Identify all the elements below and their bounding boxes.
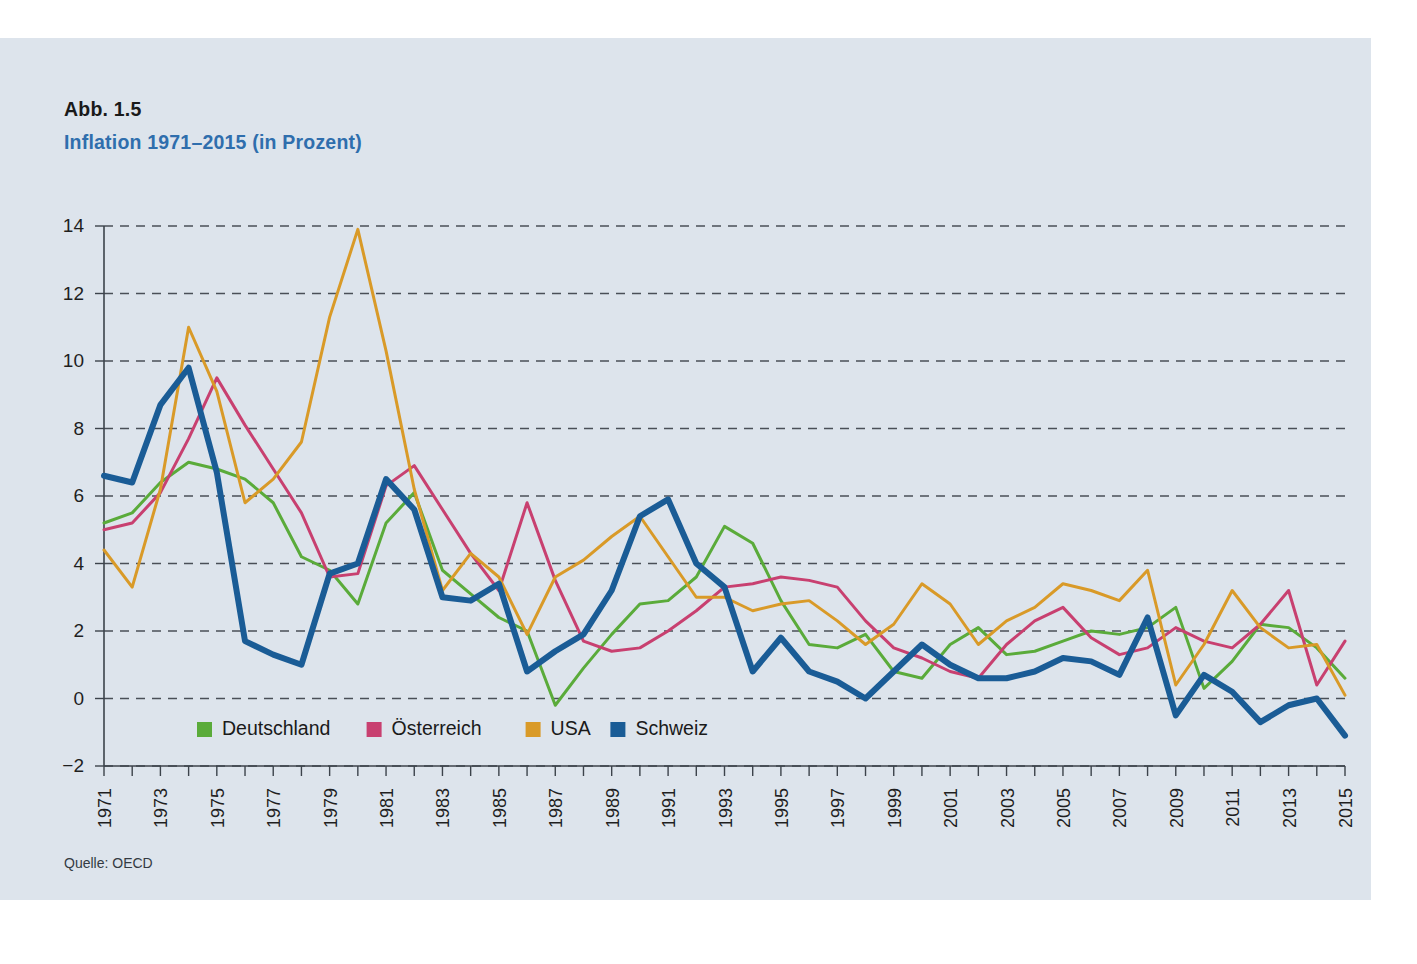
legend-label-schweiz: Schweiz: [635, 717, 708, 739]
x-tick-label: 1995: [772, 788, 792, 828]
x-tick-label: 1971: [95, 788, 115, 828]
y-tick-label: 4: [73, 553, 84, 574]
x-tick-label: 1983: [433, 788, 453, 828]
x-tick-label: 1993: [716, 788, 736, 828]
inflation-line-chart: −202468101214 19711973197519771979198119…: [0, 0, 1417, 964]
series-line-usa: [104, 229, 1345, 695]
legend-label-deutschland: Deutschland: [222, 717, 330, 739]
x-tick-label: 1997: [828, 788, 848, 828]
x-tick-label: 2011: [1223, 788, 1243, 827]
y-axis-ticks: −202468101214: [62, 215, 104, 776]
legend-swatch-deutschland: [197, 722, 212, 737]
x-tick-label: 2009: [1167, 788, 1187, 828]
x-tick-label: 1979: [321, 788, 341, 828]
x-tick-label: 1973: [151, 788, 171, 828]
x-tick-label: 2005: [1054, 788, 1074, 828]
x-tick-label: 1981: [377, 788, 397, 828]
y-tick-label: −2: [62, 755, 84, 776]
y-tick-label: 12: [63, 283, 84, 304]
x-axis-ticks: 1971197319751977197919811983198519871989…: [95, 766, 1356, 828]
y-tick-label: 0: [73, 688, 84, 709]
x-tick-label: 1977: [264, 788, 284, 828]
legend-label-sterreich: Österreich: [392, 717, 482, 739]
x-tick-label: 1985: [490, 788, 510, 828]
x-tick-label: 1975: [208, 788, 228, 828]
chart-plot-area: −202468101214 19711973197519771979198119…: [0, 0, 1417, 964]
x-tick-label: 2001: [941, 788, 961, 828]
legend-swatch-usa: [526, 722, 541, 737]
legend-swatch-sterreich: [367, 722, 382, 737]
x-tick-label: 2007: [1110, 788, 1130, 828]
y-tick-label: 6: [73, 485, 84, 506]
x-tick-label: 2003: [998, 788, 1018, 828]
x-tick-label: 2013: [1280, 788, 1300, 828]
chart-legend: DeutschlandÖsterreichUSASchweiz: [197, 717, 708, 739]
series-line-sterreich: [104, 378, 1345, 685]
y-tick-label: 10: [63, 350, 84, 371]
x-tick-label: 2015: [1336, 788, 1356, 828]
legend-swatch-schweiz: [610, 722, 625, 737]
legend-label-usa: USA: [551, 717, 591, 739]
x-tick-label: 1989: [603, 788, 623, 828]
y-tick-label: 2: [73, 620, 84, 641]
data-series: [104, 229, 1345, 735]
x-tick-label: 1999: [885, 788, 905, 828]
series-line-schweiz: [104, 368, 1345, 736]
x-tick-label: 1991: [659, 788, 679, 828]
x-tick-label: 1987: [546, 788, 566, 828]
y-tick-label: 14: [63, 215, 85, 236]
y-tick-label: 8: [73, 418, 84, 439]
